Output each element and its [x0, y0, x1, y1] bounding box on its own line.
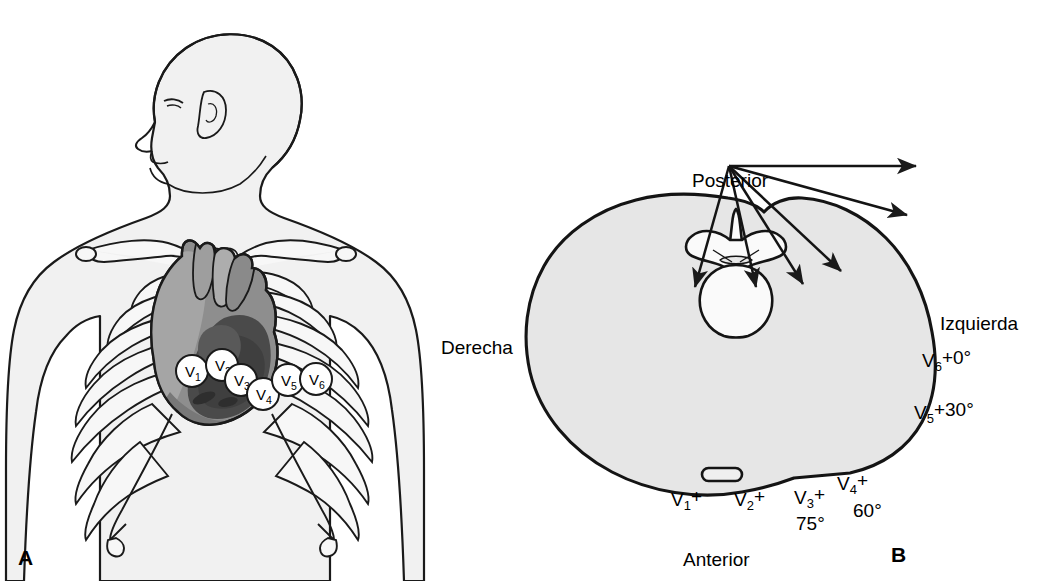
panel-a: V1 V2 V3 V4 V5 [0, 0, 430, 581]
panel-a-illustration: V1 V2 V3 V4 V5 [0, 0, 430, 581]
sternum-cross-section [702, 468, 742, 481]
electrode-v6[interactable]: V6 [300, 363, 332, 395]
lead-label-v1: V1+ [671, 489, 702, 511]
angle-label-v4: 60° [853, 500, 882, 522]
lead-label-v2: V2+ [734, 489, 765, 511]
angle-label-v3: 75° [796, 513, 825, 535]
panel-b-letter: B [891, 543, 906, 567]
electrode-v1[interactable]: V1 [176, 355, 208, 387]
lead-label-v5: V5+30° [914, 402, 974, 424]
figure-root: V1 V2 V3 V4 V5 [0, 0, 1048, 581]
panel-a-letter: A [18, 546, 33, 570]
label-derecha: Derecha [441, 337, 513, 359]
label-anterior: Anterior [683, 549, 750, 571]
label-izquierda: Izquierda [940, 313, 1018, 335]
lead-label-v4: V4+ [837, 473, 868, 495]
lead-label-v3: V3+ [794, 487, 825, 509]
lead-label-v6: V6+0° [922, 350, 971, 372]
label-posterior: Posterior [692, 170, 768, 192]
